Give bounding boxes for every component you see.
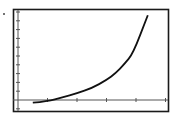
graph-frame — [14, 10, 169, 112]
calculator-graph — [0, 0, 177, 118]
data-curve — [33, 15, 148, 103]
